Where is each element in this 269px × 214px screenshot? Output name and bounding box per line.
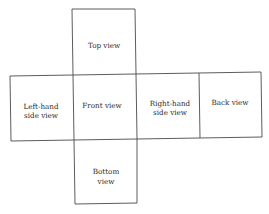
back-view-label: Back view <box>212 98 250 107</box>
front-right-divider <box>136 74 137 139</box>
left-front-divider <box>73 75 74 140</box>
top-view-panel: Top view <box>72 9 136 75</box>
middle-row-bottom-edge <box>11 137 262 141</box>
bottom-view-label-line2: view <box>97 177 116 186</box>
right-view-panel: Right-hand side view <box>150 99 191 117</box>
left-view-label-line2: side view <box>24 111 59 120</box>
front-view-label: Front view <box>82 101 122 110</box>
back-view-right-edge <box>261 72 262 137</box>
left-view-left-edge <box>10 76 11 141</box>
left-view-panel: Left-hand side view <box>23 102 59 120</box>
top-view-label: Top view <box>88 41 121 50</box>
right-back-divider <box>199 73 200 138</box>
front-view-panel: Front view <box>82 101 122 110</box>
cube-net-diagram: Top view Bottom view Left-hand side view… <box>0 0 269 214</box>
middle-row-top-edge <box>10 72 261 76</box>
right-view-label-line2: side view <box>153 108 188 117</box>
back-view-panel: Back view <box>212 98 250 107</box>
bottom-view-label-line1: Bottom <box>93 167 120 176</box>
bottom-view-panel: Bottom view <box>74 139 137 204</box>
left-view-label-line1: Left-hand <box>23 102 59 111</box>
right-view-label-line1: Right-hand <box>150 99 191 108</box>
